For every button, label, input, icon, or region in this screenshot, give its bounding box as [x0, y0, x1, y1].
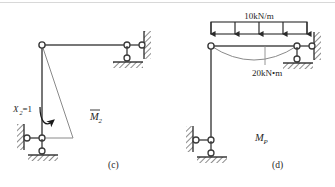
hinge-node-icon [208, 43, 214, 49]
diagram-label-sub: 2 [99, 117, 103, 124]
panel-d-diagram-label: M P [254, 132, 268, 145]
panel-c-base-support [17, 124, 58, 161]
panel-d-base-support [186, 126, 227, 163]
panel-c-top-node [39, 42, 45, 48]
load-label-base: X [12, 104, 19, 114]
panel-d: 10kN/m 20kN•m [186, 11, 321, 163]
structural-diagram-svg: X 2 =1 M 2 10kN/m [0, 0, 335, 187]
panel-d-caption: (d) [272, 160, 283, 170]
ground-hatch-icon [197, 157, 227, 163]
moment-ordinate-label: 20kN•m [252, 68, 282, 78]
wall-hatch-icon [186, 126, 193, 152]
wall-hatch-icon [17, 124, 24, 150]
roller-pin-icon [208, 150, 214, 156]
diagram-label-sub: P [263, 138, 268, 145]
panel-c-caption: (c) [108, 160, 119, 170]
pin-node-icon [24, 135, 30, 141]
ground-hatch-icon [283, 63, 313, 69]
hinge-node-icon [39, 42, 45, 48]
panel-c-right-support [113, 31, 151, 68]
ground-hatch-icon [113, 62, 143, 68]
panel-d-moment-diagram [211, 46, 297, 65]
pin-node-icon [193, 137, 199, 143]
roller-pin-icon [39, 148, 45, 154]
pin-node-icon [309, 43, 315, 49]
figure-root: X 2 =1 M 2 10kN/m [0, 0, 335, 187]
parabolic-moment-curve [211, 46, 297, 60]
panel-c-load-label: X 2 =1 [12, 104, 32, 116]
panel-c: X 2 =1 M 2 [12, 31, 151, 161]
panel-c-frame [42, 45, 126, 138]
panel-d-distributed-load [211, 22, 307, 34]
panel-c-diagram-label: M 2 [89, 110, 103, 124]
load-label-value: =1 [23, 104, 33, 114]
pin-node-icon [139, 42, 145, 48]
ground-hatch-icon [28, 155, 58, 161]
roller-pin-icon [124, 55, 130, 61]
roller-pin-icon [294, 56, 300, 62]
distributed-load-label: 10kN/m [244, 11, 274, 21]
